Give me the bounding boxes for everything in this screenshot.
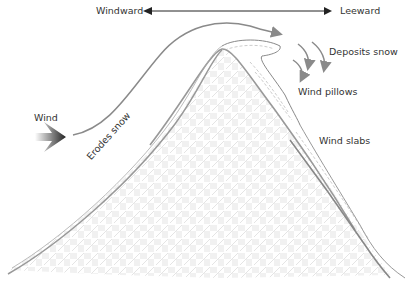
axis-arrow-left	[143, 7, 152, 15]
wind-snow-diagram: Windward Leeward Deposits snow Wind pill…	[0, 0, 420, 283]
label-leeward: Leeward	[340, 6, 380, 16]
wind-arrow-icon	[35, 122, 66, 152]
label-wind-slabs: Wind slabs	[319, 136, 370, 146]
mountain	[8, 50, 390, 278]
label-wind: Wind	[34, 113, 58, 123]
label-deposits-snow: Deposits snow	[329, 47, 398, 57]
label-wind-pillows: Wind pillows	[298, 87, 357, 97]
label-windward: Windward	[96, 6, 143, 16]
